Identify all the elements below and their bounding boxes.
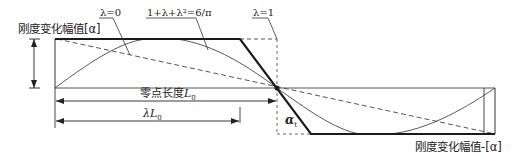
- lambda-l0-label: λL0: [142, 107, 162, 122]
- zero-length-label: 零点长度L0: [140, 86, 196, 102]
- alpha-subscript: t: [294, 121, 297, 129]
- top-axis-label: 刚度变化幅值[α]: [18, 22, 101, 36]
- diagram-svg: 刚度变化幅值[α] λ=0 1+λ+λ²=6/π λ=1 零点长度L0 λL0 …: [0, 0, 516, 156]
- bottom-axis-label: 刚度变化幅值-[α]: [415, 140, 502, 154]
- lambda-l-subscript: 0: [157, 114, 161, 122]
- alpha-symbol: α: [285, 113, 294, 127]
- lambda1-label: λ=1: [253, 7, 274, 18]
- equation-label: 1+λ+λ²=6/π: [147, 7, 212, 18]
- lambda-l-text: λL: [142, 107, 157, 120]
- leader-lines: [99, 18, 277, 55]
- zero-length-text: 零点长度: [140, 86, 184, 100]
- center-node: [275, 86, 280, 91]
- amplitude-dimension: [29, 39, 40, 88]
- lambda0-label: λ=0: [100, 7, 121, 18]
- right-frame: [484, 88, 495, 134]
- zero-length-symbol: L: [183, 87, 191, 100]
- stiffness-variation-diagram: 刚度变化幅值[α] λ=0 1+λ+λ²=6/π λ=1 零点长度L0 λL0 …: [0, 0, 516, 156]
- alpha-t-label: αt: [285, 113, 297, 129]
- zero-length-subscript: 0: [191, 94, 195, 102]
